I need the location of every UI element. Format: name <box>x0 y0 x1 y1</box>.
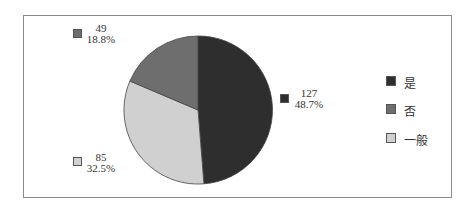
legend-swatch-no <box>386 104 396 114</box>
pie-chart <box>0 0 471 212</box>
slice-yes <box>198 36 272 184</box>
legend-label-yes: 是 <box>404 74 416 92</box>
data-label-yes: 127 48.7% <box>291 88 327 110</box>
label-swatch-general <box>73 157 82 166</box>
label-swatch-no <box>73 29 82 38</box>
legend-swatch-yes <box>386 76 396 86</box>
data-label-yes-percent: 48.7% <box>291 99 327 110</box>
data-label-no: 49 18.8% <box>84 23 118 45</box>
legend-label-general: 一般 <box>404 131 428 149</box>
legend-label-no: 否 <box>404 102 416 120</box>
data-label-general: 85 32.5% <box>84 152 118 174</box>
label-swatch-yes <box>280 94 289 103</box>
data-label-general-percent: 32.5% <box>84 163 118 174</box>
data-label-no-percent: 18.8% <box>84 34 118 45</box>
legend-swatch-general <box>386 133 396 143</box>
